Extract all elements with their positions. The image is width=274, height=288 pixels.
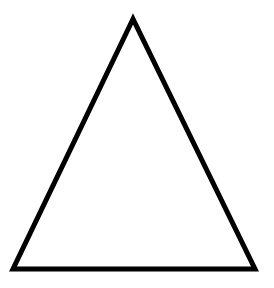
diagram-canvas	[0, 0, 274, 288]
triangle-shape	[13, 19, 255, 269]
triangle-diagram	[0, 0, 274, 288]
